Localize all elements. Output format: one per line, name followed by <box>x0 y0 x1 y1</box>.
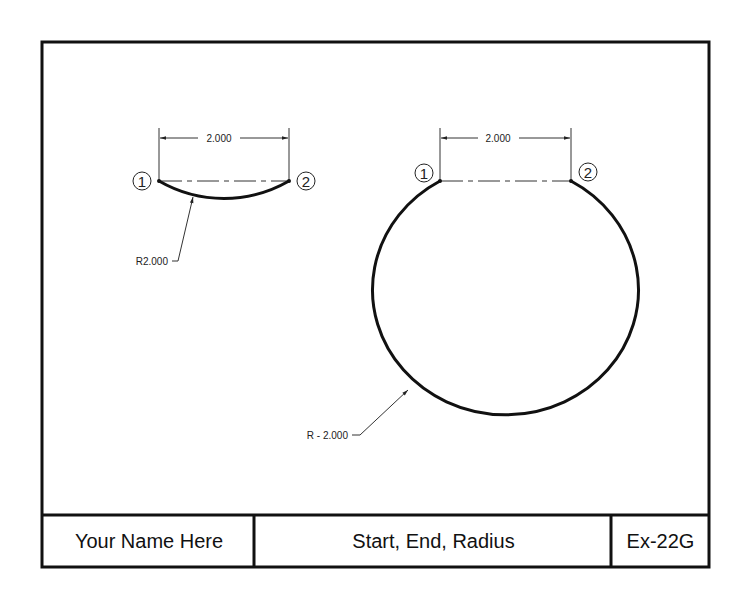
point-2-label: 2 <box>302 173 310 190</box>
point-1-marker <box>157 179 161 183</box>
arc <box>373 181 639 415</box>
right-arc-example: 2.000 1 2 R - 2.000 <box>307 128 639 441</box>
radius-leader <box>172 197 193 261</box>
radius-text: R - 2.000 <box>307 430 349 441</box>
dimension-text: 2.000 <box>206 133 231 144</box>
dimension-text: 2.000 <box>485 133 510 144</box>
point-1-marker <box>438 179 442 183</box>
left-arc-example: 2.000 1 2 R2.000 <box>133 128 315 267</box>
point-2-marker <box>287 179 291 183</box>
radius-leader <box>352 390 408 435</box>
point-2-label: 2 <box>584 164 592 181</box>
point-2-marker <box>569 179 573 183</box>
sheet-border <box>42 42 709 567</box>
title-block-name: Your Name Here <box>44 516 254 567</box>
title-block-exercise: Ex-22G <box>613 516 708 567</box>
point-1-label: 1 <box>420 165 428 182</box>
point-1-label: 1 <box>138 173 146 190</box>
title-block-title: Start, End, Radius <box>256 516 611 567</box>
radius-text: R2.000 <box>136 256 169 267</box>
arc <box>159 181 289 198</box>
drawing-sheet: 2.000 1 2 R2.000 2.000 1 2 R - 2.000 <box>0 0 740 592</box>
